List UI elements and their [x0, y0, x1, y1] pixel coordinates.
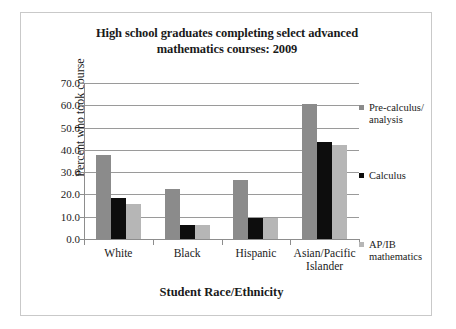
y-tick-label: 50.0	[38, 123, 80, 134]
bar-group-asian-pacific-islander	[290, 83, 359, 239]
legend-item-calculus[interactable]: Calculus	[359, 170, 435, 182]
y-tick-label: 20.0	[38, 189, 80, 200]
legend-swatch-icon-ap-ib	[359, 242, 364, 247]
bar-hispanic-pre-calculus[interactable]	[233, 180, 248, 239]
x-tick-label-black: Black	[148, 247, 226, 260]
legend-label-line-2: mathematics	[369, 251, 435, 263]
x-tick-mark	[222, 239, 223, 245]
bar-hispanic-ap-ib[interactable]	[263, 218, 278, 239]
bar-white-ap-ib[interactable]	[126, 204, 141, 239]
legend-swatch-icon-calculus	[359, 173, 364, 178]
bar-asian-ap-ib[interactable]	[332, 145, 347, 239]
bar-group-black	[153, 83, 222, 239]
y-tick-label: 40.0	[38, 145, 80, 156]
x-tick-label-white: White	[79, 247, 157, 260]
chart-title-line-2: mathematics courses: 2009	[51, 41, 403, 57]
x-axis-tick-labels: White Black Hispanic Asian/Pacific Islan…	[84, 247, 359, 281]
legend-item-pre-calculus[interactable]: Pre-calculus/ analysis	[359, 102, 435, 125]
y-tick-label: 30.0	[38, 167, 80, 178]
x-tick-mark	[153, 239, 154, 245]
bar-group-hispanic	[222, 83, 291, 239]
bar-white-pre-calculus[interactable]	[96, 155, 111, 239]
y-tick-label: 10.0	[38, 212, 80, 223]
legend-label-line-1: Calculus	[369, 170, 435, 182]
bar-asian-pre-calculus[interactable]	[302, 104, 317, 239]
x-tick-mark	[84, 239, 85, 245]
bar-white-calculus[interactable]	[111, 198, 126, 239]
bar-group-white	[84, 83, 153, 239]
x-tick-label-line-2: Islander	[286, 260, 364, 273]
y-tick-label: 0.0	[38, 234, 80, 245]
bar-groups	[84, 83, 359, 239]
legend-label-line-1: Pre-calculus/	[369, 102, 435, 114]
x-axis-title: Student Race/Ethnicity	[84, 285, 359, 300]
chart-title: High school graduates completing select …	[51, 25, 403, 57]
legend-label-line-1: AP/IB	[369, 239, 435, 251]
legend-swatch-icon-pre-calculus	[359, 105, 364, 110]
bar-black-pre-calculus[interactable]	[165, 189, 180, 239]
y-tick-label: 70.0	[38, 78, 80, 89]
x-tick-label-hispanic: Hispanic	[217, 247, 295, 260]
legend-item-ap-ib[interactable]: AP/IB mathematics	[359, 239, 435, 262]
x-tick-label-line-1: Asian/Pacific	[286, 247, 364, 260]
bar-hispanic-calculus[interactable]	[248, 218, 263, 239]
x-tick-mark	[290, 239, 291, 245]
legend-label-line-2: analysis	[369, 114, 435, 126]
bar-asian-calculus[interactable]	[317, 142, 332, 239]
chart-title-line-1: High school graduates completing select …	[51, 25, 403, 41]
y-axis-tick-labels: 70.0 60.0 50.0 40.0 30.0 20.0 10.0 0.0	[35, 83, 80, 240]
x-tick-label-asian-pacific-islander: Asian/Pacific Islander	[286, 247, 364, 273]
chart-canvas: High school graduates completing select …	[21, 13, 433, 317]
bar-black-ap-ib[interactable]	[195, 225, 210, 239]
bar-black-calculus[interactable]	[180, 225, 195, 239]
y-tick-label: 60.0	[38, 100, 80, 111]
chart-frame: High school graduates completing select …	[20, 12, 432, 316]
